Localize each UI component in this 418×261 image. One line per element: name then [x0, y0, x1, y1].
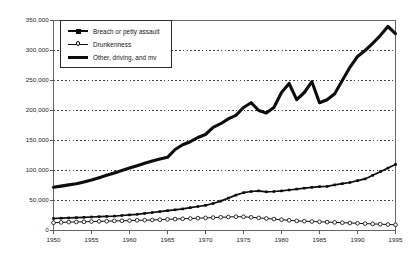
legend-item-other-driving-and-mv: Other, driving, and mv — [65, 51, 157, 63]
legend-label: Breach or petty assault — [93, 28, 160, 35]
chart-legend: Breach or petty assault Drunkenness Othe… — [60, 20, 172, 68]
legend-swatch-line-with-square-marker-icon — [65, 26, 91, 36]
y-axis-tick-label: 0 — [5, 227, 49, 233]
y-axis-tick-label: 300,000 — [5, 47, 49, 53]
x-axis-tick-label: 1990 — [343, 237, 373, 243]
legend-swatch-thick-line-icon — [65, 52, 91, 62]
legend-label: Drunkenness — [93, 41, 131, 48]
legend-item-breach-or-petty-assault: Breach or petty assault — [65, 25, 160, 37]
legend-swatch-line-with-open-circle-marker-icon — [65, 39, 91, 49]
y-axis-tick-label: 200,000 — [5, 107, 49, 113]
x-axis-tick-label: 1975 — [229, 237, 259, 243]
legend-label: Other, driving, and mv — [93, 54, 157, 61]
legend-item-drunkenness: Drunkenness — [65, 38, 131, 50]
x-axis-tick-label: 1970 — [191, 237, 221, 243]
x-axis-tick-label: 1960 — [115, 237, 145, 243]
y-axis-tick-label: 100,000 — [5, 167, 49, 173]
y-axis-tick-label: 250,000 — [5, 77, 49, 83]
chart-container: 050,000100,000150,000200,000250,000300,0… — [0, 0, 418, 261]
gridlines-group — [54, 51, 396, 201]
y-axis-tick-label: 50,000 — [5, 197, 49, 203]
x-axis-tick-label: 1980 — [267, 237, 297, 243]
y-axis-tick-label: 350,000 — [5, 17, 49, 23]
y-axis-tick-label: 150,000 — [5, 137, 49, 143]
x-axis-tick-label: 1950 — [39, 237, 69, 243]
x-axis-tick-label: 1965 — [153, 237, 183, 243]
x-axis-tick-label: 1985 — [305, 237, 335, 243]
x-axis-tick-label: 1955 — [77, 237, 107, 243]
x-axis-tick-label: 1995 — [381, 237, 411, 243]
